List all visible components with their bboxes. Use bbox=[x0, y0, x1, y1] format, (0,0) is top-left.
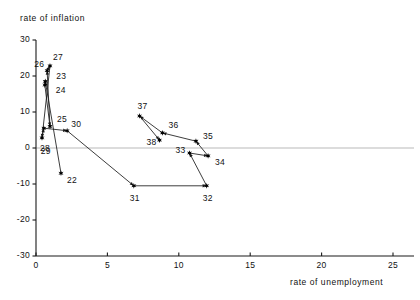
data-point-label-35: 35 bbox=[203, 131, 213, 141]
x-tick-label: 15 bbox=[240, 260, 260, 270]
x-tick-label: 0 bbox=[26, 260, 46, 270]
y-tick-label: 10 bbox=[4, 106, 30, 116]
data-point-label-33: 33 bbox=[176, 145, 186, 155]
series-markers bbox=[39, 63, 210, 189]
data-point-label-37: 37 bbox=[138, 101, 148, 111]
data-point-label-22: 22 bbox=[67, 175, 77, 185]
data-point-label-31: 31 bbox=[130, 193, 140, 203]
x-tick-label: 5 bbox=[97, 260, 117, 270]
data-point-label-24: 24 bbox=[56, 85, 66, 95]
data-point-label-38: 38 bbox=[147, 137, 157, 147]
y-tick-label: -30 bbox=[4, 250, 30, 260]
chart-container: rate of inflation rate of unemployment 3… bbox=[0, 0, 420, 300]
x-tick-label: 25 bbox=[383, 260, 403, 270]
data-point-label-36: 36 bbox=[168, 120, 178, 130]
data-point-label-26: 26 bbox=[34, 59, 44, 69]
data-point-label-30: 30 bbox=[71, 119, 81, 129]
y-tick-label: -20 bbox=[4, 214, 30, 224]
y-tick-label: 20 bbox=[4, 70, 30, 80]
data-point-label-25: 25 bbox=[57, 114, 67, 124]
data-point-label-23: 23 bbox=[56, 71, 66, 81]
x-tick-label: 20 bbox=[312, 260, 332, 270]
data-point-label-27: 27 bbox=[53, 52, 63, 62]
data-point-label-32: 32 bbox=[203, 193, 213, 203]
y-tick-label: -10 bbox=[4, 178, 30, 188]
y-tick-label: 30 bbox=[4, 34, 30, 44]
y-tick-label: 0 bbox=[4, 142, 30, 152]
plot-area bbox=[0, 0, 420, 300]
data-point-label-34: 34 bbox=[215, 157, 225, 167]
x-tick-label: 10 bbox=[169, 260, 189, 270]
data-point-label-29: 29 bbox=[41, 146, 51, 156]
